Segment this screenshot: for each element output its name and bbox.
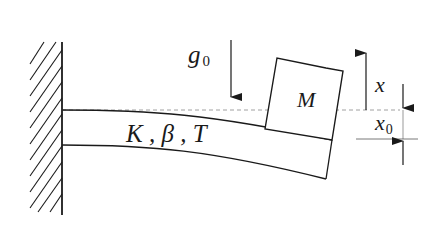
beam-properties-label: K , β , T [125, 120, 209, 147]
wall-hatching [30, 42, 62, 212]
static-offset-label: x0 [374, 110, 393, 137]
displacement-label: x [374, 72, 385, 97]
wall-support [30, 42, 62, 215]
cantilever-mass-diagram: g0 K , β , T M x x0 [0, 0, 438, 225]
gravity-label: g0 [188, 41, 210, 69]
mass-label: M [296, 87, 317, 112]
